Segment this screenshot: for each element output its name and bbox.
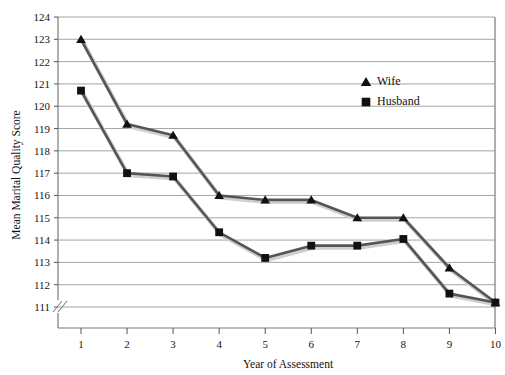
y-tick-label: 120 [34, 100, 51, 112]
legend-marker-wife [361, 77, 372, 86]
y-tick-label: 118 [34, 145, 51, 157]
x-axis-title: Year of Assessment [243, 358, 334, 370]
legend-marker-husband [362, 98, 371, 107]
marital-quality-line-chart: 1111121131141151161171181191201211221231… [0, 0, 505, 375]
marker-husband [492, 299, 500, 307]
x-axis-tick-labels: 12345678910 [78, 338, 501, 350]
marker-husband [261, 254, 269, 262]
x-tick-label: 10 [490, 338, 502, 350]
x-tick-label: 1 [78, 338, 84, 350]
x-tick-label: 7 [355, 338, 361, 350]
x-tick-label: 9 [447, 338, 453, 350]
y-tick-label: 111 [34, 301, 50, 313]
chart-canvas: 1111121131141151161171181191201211221231… [0, 0, 505, 375]
x-axis-tick-marks [81, 328, 495, 334]
y-tick-label: 122 [34, 56, 51, 68]
y-tick-label: 114 [34, 234, 51, 246]
x-tick-label: 8 [401, 338, 407, 350]
y-tick-label: 124 [34, 11, 51, 23]
x-tick-label: 4 [216, 338, 222, 350]
y-tick-label: 115 [34, 212, 51, 224]
marker-husband [353, 242, 361, 250]
x-tick-label: 2 [124, 338, 130, 350]
legend-label-wife: Wife [377, 74, 401, 88]
y-tick-label: 112 [34, 279, 50, 291]
y-tick-label: 123 [34, 33, 51, 45]
y-axis-tick-labels: 1111121131141151161171181191201211221231… [34, 11, 51, 313]
y-axis-title: Mean Marital Quality Score [10, 110, 23, 239]
series-line-wife [81, 39, 495, 302]
legend-label-husband: Husband [377, 94, 420, 108]
marker-husband [169, 173, 177, 181]
x-tick-label: 3 [170, 338, 176, 350]
axis-break-slash [58, 301, 67, 312]
marker-husband [123, 169, 131, 177]
marker-wife [76, 35, 86, 43]
y-tick-label: 117 [34, 167, 51, 179]
y-tick-label: 119 [34, 123, 51, 135]
y-tick-label: 116 [34, 189, 51, 201]
chart-legend: WifeHusband [361, 74, 420, 108]
marker-husband [215, 228, 223, 236]
marker-husband [77, 87, 85, 95]
series-line-shadow-husband [83, 93, 497, 305]
series-markers [76, 35, 500, 307]
y-tick-label: 113 [34, 256, 51, 268]
x-tick-label: 5 [262, 338, 268, 350]
marker-husband [307, 242, 315, 250]
y-tick-label: 121 [34, 78, 51, 90]
series-lines [81, 39, 497, 304]
series-line-husband [81, 91, 495, 303]
marker-husband [399, 235, 407, 243]
x-tick-label: 6 [309, 338, 315, 350]
marker-husband [446, 290, 454, 298]
